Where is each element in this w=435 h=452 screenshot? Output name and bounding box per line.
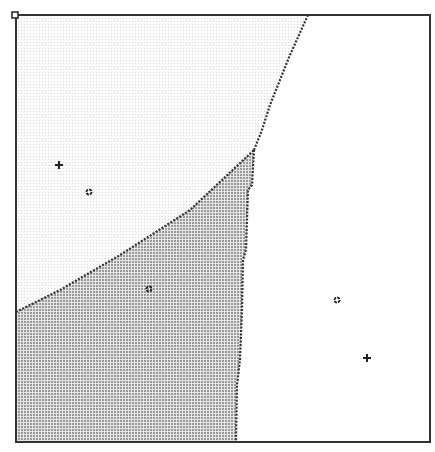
corner-handle[interactable]: [12, 12, 18, 18]
diagram-canvas: [0, 0, 435, 452]
decision-region-diagram: [0, 0, 435, 452]
